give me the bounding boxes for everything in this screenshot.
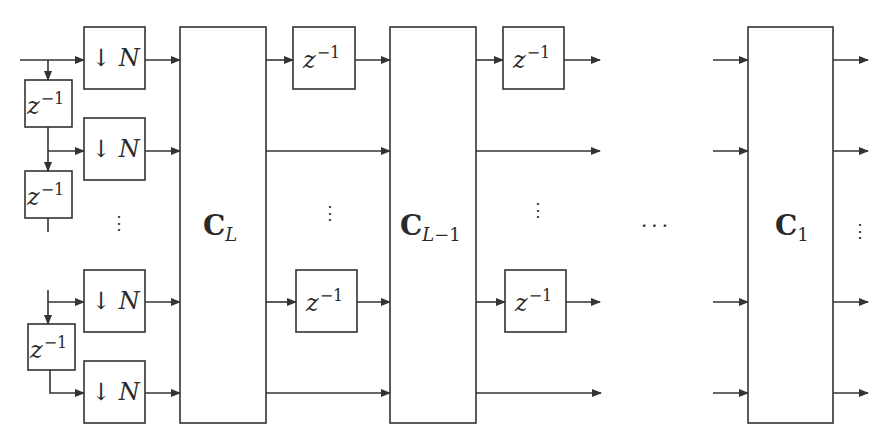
decimator-label-1: ↓ N (91, 46, 140, 70)
delay-label-stage2-1: z−1 (513, 45, 550, 72)
input-line-top (20, 60, 84, 80)
delay-label-stage1-2: z−1 (306, 288, 343, 315)
delay-label-left-2: z−1 (27, 182, 64, 209)
ellipsis-horizontal-stages: ··· (641, 214, 672, 238)
block-label-c-l: CL (203, 212, 237, 244)
down-arrow-icon: ↓ (91, 378, 111, 406)
connector-left-3 (50, 370, 84, 393)
ellipsis-vertical-stage2: ⋮ (529, 205, 539, 214)
ellipsis-vertical-stage1: ⋮ (321, 208, 331, 217)
input-line-lower (48, 290, 84, 324)
connector-left-1 (48, 127, 84, 171)
block-label-c-1: C1 (775, 212, 809, 244)
delay-label-stage2-2: z−1 (515, 288, 552, 315)
down-arrow-icon: ↓ (91, 135, 111, 163)
delay-label-stage1-1: z−1 (303, 45, 340, 72)
delay-label-left-1: z−1 (27, 91, 64, 118)
decimator-label-2: ↓ N (91, 137, 140, 161)
ellipsis-vertical-decimators: ⋮ (110, 218, 120, 227)
down-arrow-icon: ↓ (91, 287, 111, 315)
down-arrow-icon: ↓ (91, 44, 111, 72)
delay-label-left-3: z−1 (30, 335, 67, 362)
ellipsis-vertical-output: ⋮ (851, 226, 861, 235)
decimator-label-3: ↓ N (91, 289, 140, 313)
decimator-label-4: ↓ N (91, 380, 140, 404)
block-label-c-l-minus-1: CL−1 (400, 212, 461, 244)
